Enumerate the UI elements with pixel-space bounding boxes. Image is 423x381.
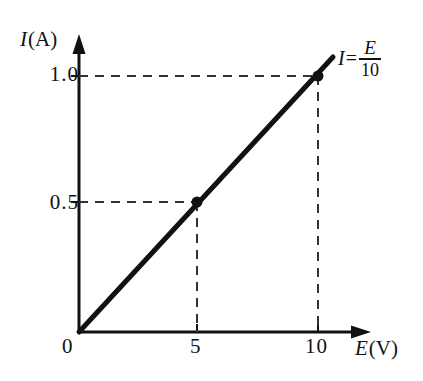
y-axis-unit: (A) — [28, 27, 57, 51]
data-line — [79, 57, 333, 332]
equation-left-side: I — [338, 47, 345, 70]
chart-figure: I(A) E(V) 1.0 0.5 0 5 10 I = E 10 — [0, 0, 423, 381]
data-point-marker — [192, 197, 203, 208]
equation-fraction: E 10 — [359, 38, 381, 79]
equation-numerator: E — [362, 38, 378, 58]
x-axis-variable: E — [355, 336, 369, 360]
y-tick-label-0.5: 0.5 — [50, 190, 79, 215]
x-tick-label-0: 0 — [62, 334, 74, 359]
equation-denominator: 10 — [359, 60, 381, 79]
x-axis-unit: (V) — [369, 336, 398, 360]
y-axis-label: I(A) — [20, 27, 57, 52]
y-tick-label-1.0: 1.0 — [50, 62, 79, 87]
y-axis-variable: I — [20, 27, 28, 51]
equation-equals-sign: = — [345, 47, 358, 70]
x-axis-label: E(V) — [355, 336, 398, 361]
x-tick-label-10: 10 — [305, 334, 328, 359]
x-tick-label-5: 5 — [190, 334, 202, 359]
line-equation-annotation: I = E 10 — [338, 38, 381, 79]
data-point-marker — [313, 71, 324, 82]
